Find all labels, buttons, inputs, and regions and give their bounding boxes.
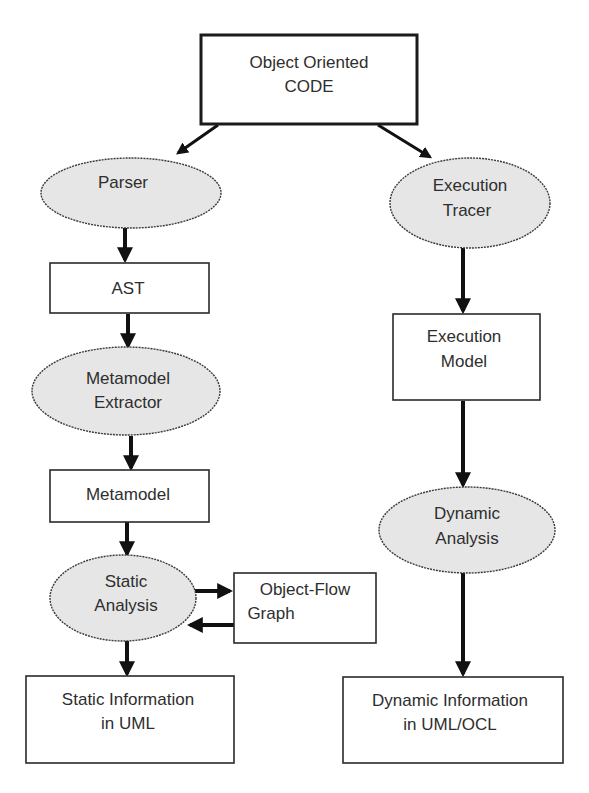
node-dynamic-info: Dynamic Information in UML/OCL: [343, 677, 563, 763]
flow-diagram: Object Oriented CODE Parser AST Metamode…: [0, 0, 589, 793]
node-code-line2: CODE: [284, 77, 333, 96]
node-static-analysis-line2: Analysis: [94, 596, 157, 615]
node-parser: Parser: [41, 158, 221, 228]
node-extractor-line2: Extractor: [94, 393, 162, 412]
node-dynamic-analysis-line1: Dynamic: [434, 504, 501, 523]
node-static-info: Static Information in UML: [26, 676, 234, 763]
node-ast-line1: AST: [111, 279, 144, 298]
node-metamodel: Metamodel: [50, 470, 209, 522]
node-exec-model-line1: Execution: [427, 327, 502, 346]
node-static-info-line1: Static Information: [62, 690, 194, 709]
node-dynamic-info-line2: in UML/OCL: [403, 715, 497, 734]
node-dynamic-analysis: Dynamic Analysis: [379, 487, 555, 573]
node-ofg-line2: Graph: [247, 604, 294, 623]
node-execution-model: Execution Model: [393, 314, 540, 400]
node-static-analysis: Static Analysis: [50, 555, 196, 641]
node-exec-model-line2: Model: [441, 352, 487, 371]
node-object-flow-graph: Object-Flow Graph: [234, 573, 376, 643]
node-parser-line1: Parser: [98, 173, 148, 192]
node-execution-tracer: Execution Tracer: [390, 158, 550, 248]
node-code-line1: Object Oriented: [249, 53, 368, 72]
edge-code-to-parser: [178, 125, 218, 153]
node-extractor-line1: Metamodel: [86, 369, 170, 388]
edge-code-to-tracer: [378, 125, 430, 157]
node-extractor: Metamodel Extractor: [32, 347, 220, 435]
node-tracer-line1: Execution: [433, 176, 508, 195]
node-metamodel-line1: Metamodel: [86, 485, 170, 504]
node-code: Object Oriented CODE: [201, 35, 417, 124]
node-dynamic-info-line1: Dynamic Information: [372, 691, 528, 710]
node-dynamic-analysis-line2: Analysis: [435, 529, 498, 548]
node-static-info-line2: in UML: [101, 714, 155, 733]
node-tracer-line2: Tracer: [443, 201, 492, 220]
node-ofg-line1: Object-Flow: [260, 580, 351, 599]
node-static-analysis-line1: Static: [105, 572, 148, 591]
node-ast: AST: [50, 263, 209, 313]
